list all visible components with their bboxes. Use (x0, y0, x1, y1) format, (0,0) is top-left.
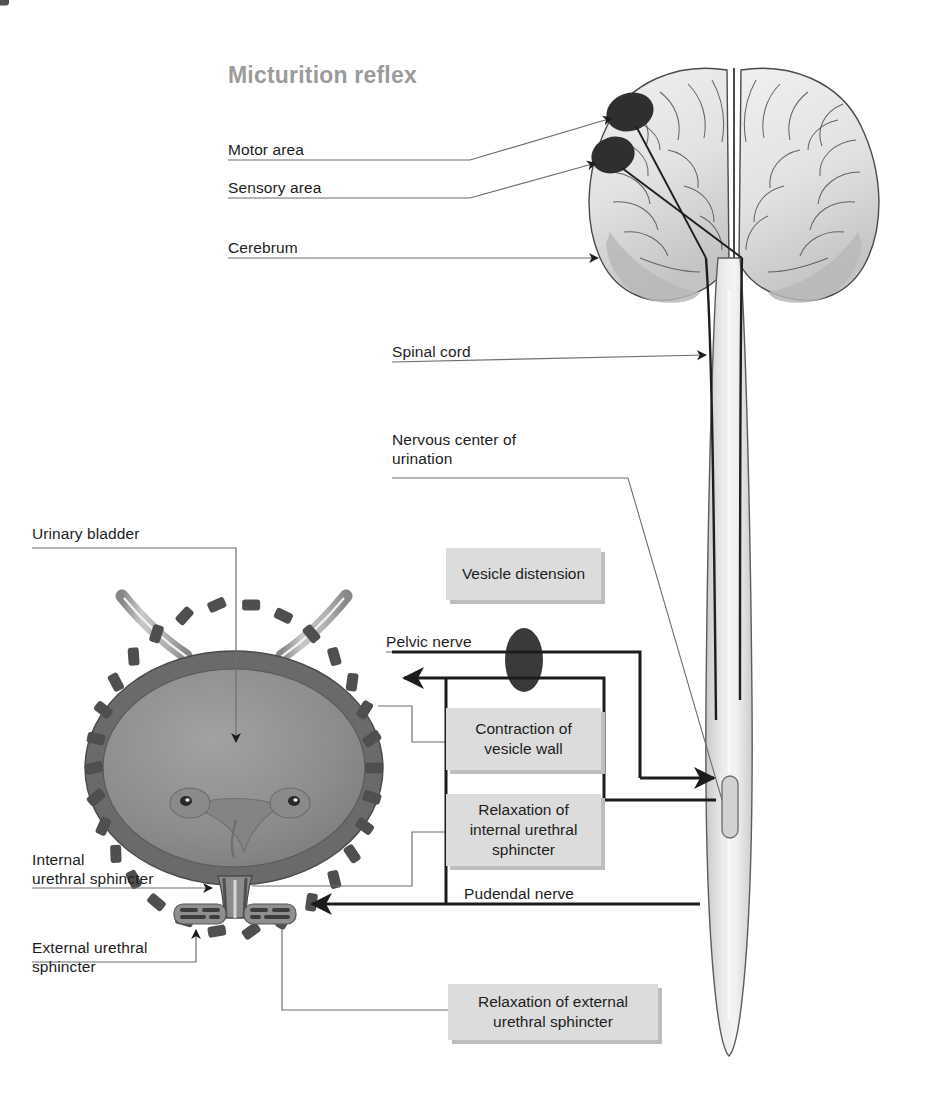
diagram-canvas: Micturition reflex Motor area Sensory ar… (0, 0, 929, 1108)
label-pelvic-nerve: Pelvic nerve (386, 632, 472, 651)
box-contraction-of-vesicle-wall: Contraction of vesicle wall (446, 708, 601, 770)
pelvic-ganglion (505, 628, 543, 692)
label-cerebrum: Cerebrum (228, 238, 298, 257)
box-relaxation-of-external-urethral-sphincter: Relaxation of external urethral sphincte… (448, 984, 658, 1040)
label-sensory-area: Sensory area (228, 178, 321, 197)
urinary-bladder-illustration (0, 0, 383, 941)
box-vesicle-distension: Vesicle distension (446, 548, 601, 600)
label-spinal-cord: Spinal cord (392, 342, 471, 361)
label-pudendal-nerve: Pudendal nerve (464, 884, 574, 903)
left-ureteral-orifice (170, 788, 210, 818)
label-internal-urethral-sphincter: Internal urethral sphincter (32, 850, 154, 888)
label-external-urethral-sphincter: External urethral sphincter (32, 938, 147, 976)
right-ureteral-orifice (270, 788, 310, 818)
label-urinary-bladder: Urinary bladder (32, 524, 139, 543)
label-motor-area: Motor area (228, 140, 304, 159)
box-relaxation-of-internal-urethral-sphincter: Relaxation of internal urethral sphincte… (446, 794, 601, 866)
bladder-lumen (103, 669, 365, 867)
page-title: Micturition reflex (228, 62, 417, 89)
label-nervous-center-of-urination: Nervous center of urination (392, 430, 516, 468)
nervous-center-marking (722, 776, 738, 838)
